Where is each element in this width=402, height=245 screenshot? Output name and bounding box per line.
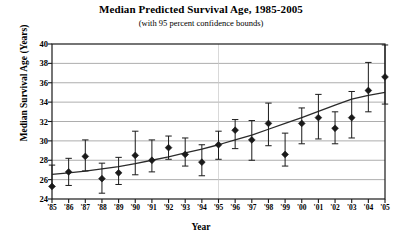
data-point-marker	[115, 169, 122, 176]
data-point-group	[365, 62, 372, 111]
data-point-group	[332, 112, 339, 144]
data-point-marker	[82, 153, 89, 160]
data-point-group	[82, 140, 89, 171]
data-point-group	[382, 45, 389, 104]
data-point-marker	[348, 114, 355, 121]
data-point-marker	[165, 144, 172, 151]
data-point-marker	[65, 168, 72, 175]
data-point-group	[282, 133, 289, 166]
data-point-marker	[248, 137, 255, 144]
data-point-group	[298, 108, 305, 144]
data-point-marker	[298, 120, 305, 127]
data-point-marker	[99, 175, 106, 182]
data-point-group	[132, 131, 139, 175]
data-point-marker	[132, 152, 139, 159]
data-point-marker	[49, 183, 56, 190]
data-point-group	[65, 158, 72, 185]
data-point-marker	[365, 87, 372, 94]
data-point-group	[248, 121, 255, 161]
data-point-group	[49, 165, 56, 190]
data-point-marker	[315, 114, 322, 121]
data-point-marker	[332, 125, 339, 132]
data-point-group	[99, 163, 106, 193]
data-point-group	[265, 103, 272, 146]
data-point-group	[149, 140, 156, 172]
data-point-group	[215, 131, 222, 159]
data-point-marker	[382, 74, 389, 81]
chart-container: Median Predicted Survival Age, 1985-2005…	[0, 0, 402, 245]
data-point-group	[315, 94, 322, 139]
data-point-marker	[282, 151, 289, 158]
data-point-marker	[232, 127, 239, 134]
data-point-marker	[215, 141, 222, 148]
data-point-group	[115, 157, 122, 184]
data-point-marker	[149, 157, 156, 164]
data-point-group	[232, 120, 239, 149]
data-point-marker	[265, 120, 272, 127]
data-point-marker	[198, 159, 205, 166]
plot-area	[0, 0, 402, 245]
